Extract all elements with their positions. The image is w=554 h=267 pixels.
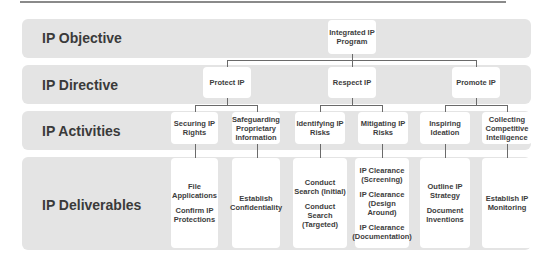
connector bbox=[320, 144, 321, 158]
deliverable-node: Conduct Search (Initial) Conduct Search … bbox=[293, 158, 347, 248]
deliverable-item: Conduct Search (Initial) bbox=[293, 178, 347, 196]
deliverable-item: IP Clearance (Design Around) bbox=[355, 190, 409, 217]
deliverable-item: IP Clearance (Documentation) bbox=[352, 223, 412, 241]
connector bbox=[195, 105, 258, 106]
objective-node: Integrated IP Program bbox=[328, 20, 376, 54]
connector bbox=[445, 105, 508, 106]
activity-node: Collecting Competitive Intelligence bbox=[482, 112, 532, 144]
connector bbox=[476, 98, 477, 105]
objective-label: Integrated IP Program bbox=[328, 28, 376, 46]
deliverable-item: Outline IP Strategy bbox=[420, 182, 470, 200]
directive-node-protect: Protect IP bbox=[203, 67, 251, 98]
level-label-objective: IP Objective bbox=[42, 30, 122, 46]
deliverable-node: Establish Confidentiality bbox=[232, 158, 280, 248]
activity-label: Safeguarding Proprietary Information bbox=[232, 115, 280, 142]
directive-label: Respect IP bbox=[333, 78, 371, 87]
activity-node: Securing IP Rights bbox=[171, 112, 218, 144]
connector bbox=[352, 98, 353, 105]
deliverable-item: Establish IP Monitoring bbox=[482, 194, 532, 212]
level-label-deliverables: IP Deliverables bbox=[42, 197, 141, 213]
level-label-activities: IP Activities bbox=[42, 123, 121, 139]
activity-label: Securing IP Rights bbox=[171, 119, 218, 137]
deliverable-item: File Applications bbox=[171, 182, 218, 200]
connector bbox=[320, 105, 383, 106]
deliverable-item: Confirm IP Protections bbox=[171, 206, 218, 224]
directive-node-promote: Promote IP bbox=[452, 67, 500, 98]
connector bbox=[382, 144, 383, 158]
deliverable-node: IP Clearance (Screening) IP Clearance (D… bbox=[355, 158, 409, 248]
connector bbox=[445, 144, 446, 158]
directive-label: Protect IP bbox=[209, 78, 244, 87]
directive-node-respect: Respect IP bbox=[328, 67, 376, 98]
activity-label: Inspiring Ideation bbox=[420, 119, 470, 137]
directive-label: Promote IP bbox=[456, 78, 496, 87]
activity-node: Identifying IP Risks bbox=[295, 112, 345, 144]
activity-node: Mitigating IP Risks bbox=[358, 112, 408, 144]
deliverable-node: File Applications Confirm IP Protections bbox=[171, 158, 218, 248]
activity-label: Collecting Competitive Intelligence bbox=[482, 115, 532, 142]
deliverable-node: Establish IP Monitoring bbox=[482, 158, 532, 248]
level-label-directive: IP Directive bbox=[42, 77, 118, 93]
activity-node: Safeguarding Proprietary Information bbox=[232, 112, 280, 144]
deliverable-item: Document Inventions bbox=[420, 206, 470, 224]
activity-label: Identifying IP Risks bbox=[295, 119, 345, 137]
top-rule bbox=[20, 1, 506, 3]
activity-node: Inspiring Ideation bbox=[420, 112, 470, 144]
connector bbox=[507, 144, 508, 158]
connector bbox=[257, 144, 258, 158]
deliverable-item: IP Clearance (Screening) bbox=[355, 166, 409, 184]
deliverable-item: Establish Confidentiality bbox=[230, 194, 282, 212]
activity-label: Mitigating IP Risks bbox=[358, 119, 408, 137]
deliverable-item: Conduct Search (Targeted) bbox=[293, 202, 347, 229]
connector bbox=[195, 144, 196, 158]
connector bbox=[227, 98, 228, 105]
deliverable-node: Outline IP Strategy Document Inventions bbox=[420, 158, 470, 248]
